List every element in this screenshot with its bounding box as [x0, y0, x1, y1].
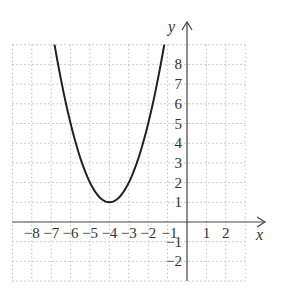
y-tick-label: 3: [175, 155, 183, 171]
y-tick-label: 8: [175, 56, 183, 72]
x-axis-label: x: [255, 226, 263, 243]
parabola-chart: xy−8−7−6−5−4−3−2−11287654321−1−2: [0, 0, 287, 296]
y-tick-label: 5: [175, 116, 183, 132]
x-tick-label: −5: [82, 225, 98, 241]
x-tick-label: −8: [24, 225, 40, 241]
y-tick-label: −1: [166, 234, 182, 250]
x-tick-label: −3: [121, 225, 137, 241]
x-tick-label: −6: [63, 225, 79, 241]
y-tick-label: 2: [175, 175, 183, 191]
y-tick-label: 1: [175, 194, 183, 210]
y-axis-label: y: [166, 18, 176, 36]
x-tick-label: 1: [203, 225, 211, 241]
y-tick-label: 4: [175, 135, 183, 151]
x-tick-label: −4: [101, 225, 117, 241]
y-tick-label: −2: [166, 253, 182, 269]
x-tick-label: 2: [222, 225, 230, 241]
y-tick-label: 6: [175, 96, 183, 112]
y-tick-label: 7: [175, 76, 183, 92]
x-tick-label: −2: [140, 225, 156, 241]
x-tick-label: −7: [43, 225, 59, 241]
